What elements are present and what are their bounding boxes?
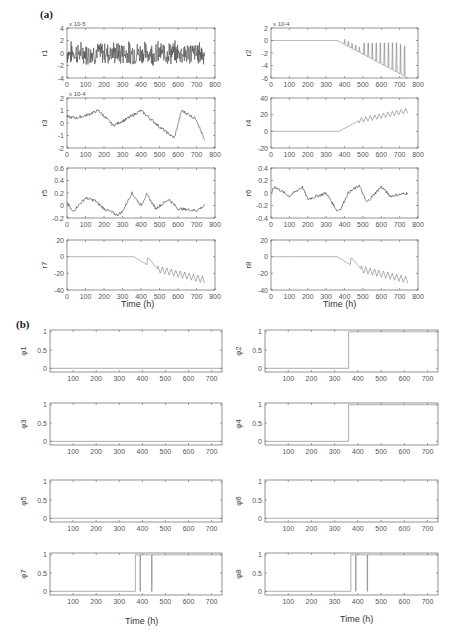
- y-tick-label: -2: [262, 50, 268, 57]
- x-tick-label: 200: [302, 81, 314, 88]
- y-tick-label: 1: [258, 401, 262, 408]
- y-tick-label: -20: [258, 145, 268, 152]
- plot-r8: 0100200300400500600700800-40-20020r8: [244, 237, 424, 301]
- x-tick-label: 300: [113, 525, 125, 532]
- y-tick-label: 0.2: [258, 177, 268, 184]
- data-series: [271, 109, 408, 132]
- x-tick-label: 400: [352, 375, 364, 382]
- y-tick-label: 0.4: [258, 165, 268, 172]
- x-tick-label: 600: [398, 598, 410, 605]
- plot-frame: [67, 240, 215, 290]
- x-tick-label: 100: [67, 375, 79, 382]
- plot-φ7: 10020030040050060070000.51φ7: [19, 551, 222, 605]
- y-tick-label: 1: [258, 478, 262, 485]
- x-tick-label: 100: [67, 448, 79, 455]
- plot-φ3: 10020030040050060070000.51φ3: [19, 401, 222, 455]
- x-tick-label: 400: [352, 448, 364, 455]
- x-tick-label: 200: [90, 525, 102, 532]
- x-tick-label: 500: [375, 375, 387, 382]
- plot-r5: 0100200300400500600700800-0.200.20.40.6r…: [40, 165, 221, 229]
- y-tick-label: 0.5: [252, 420, 262, 427]
- y-tick-label: 0: [43, 515, 47, 522]
- y-axis-label: r5: [40, 189, 49, 197]
- y-axis-label: φ8: [234, 569, 243, 579]
- x-tick-label: 800: [209, 81, 221, 88]
- x-tick-label: 400: [135, 81, 147, 88]
- x-tick-label: 0: [269, 221, 273, 228]
- x-tick-label: 500: [375, 525, 387, 532]
- x-tick-label: 200: [90, 375, 102, 382]
- y-tick-label: 0: [264, 253, 268, 260]
- x-tick-label: 100: [284, 221, 296, 228]
- y-axis-label: r3: [40, 119, 49, 127]
- x-tick-label: 400: [352, 598, 364, 605]
- x-tick-label: 300: [117, 151, 129, 158]
- y-tick-label: 1: [43, 478, 47, 485]
- plot-φ5: 10020030040050060070000.51φ5: [19, 478, 222, 532]
- x-tick-label: 300: [329, 525, 341, 532]
- x-tick-label: 300: [117, 221, 129, 228]
- data-series: [67, 40, 205, 65]
- x-tick-label: 100: [282, 448, 294, 455]
- plot-frame: [265, 330, 438, 372]
- y-tick-label: 4: [60, 25, 64, 32]
- x-tick-label: 200: [98, 221, 110, 228]
- y-tick-label: 0: [258, 438, 262, 445]
- y-tick-label: 1: [258, 551, 262, 558]
- plot-φ1: 10020030040050060070000.51φ1: [19, 328, 222, 382]
- y-tick-label: -0.2: [256, 202, 268, 209]
- y-tick-label: -40: [54, 287, 64, 294]
- x-tick-label: 700: [394, 151, 406, 158]
- x-tick-label: 200: [98, 293, 110, 300]
- panel-b-label: (b): [16, 318, 29, 330]
- x-tick-label: 200: [90, 448, 102, 455]
- x-tick-label: 700: [191, 81, 203, 88]
- x-tick-label: 200: [98, 81, 110, 88]
- x-tick-label: 700: [394, 81, 406, 88]
- x-tick-label: 100: [282, 525, 294, 532]
- y-tick-label: -20: [258, 270, 268, 277]
- x-tick-label: 500: [357, 221, 369, 228]
- x-tick-label: 500: [154, 81, 166, 88]
- y-tick-label: 1: [43, 328, 47, 335]
- x-tick-label: 500: [154, 151, 166, 158]
- plot-r2: 0100200300400500600700800-6-4-202r2x 10-…: [244, 21, 424, 88]
- x-tick-label: 0: [269, 151, 273, 158]
- x-tick-label: 0: [65, 293, 69, 300]
- x-tick-label: 100: [80, 151, 92, 158]
- x-tick-label: 200: [90, 598, 102, 605]
- plot-r4: 0100200300400500600700800-2002040r4: [244, 95, 424, 159]
- x-tick-label: 400: [339, 221, 351, 228]
- x-tick-label: 300: [320, 81, 332, 88]
- plot-frame: [67, 98, 215, 148]
- x-tick-label: 500: [357, 81, 369, 88]
- y-tick-label: -0.2: [52, 215, 64, 222]
- y-tick-label: 0.5: [252, 570, 262, 577]
- x-tick-label: 800: [412, 293, 424, 300]
- x-tick-label: 700: [394, 221, 406, 228]
- y-tick-label: 0: [43, 438, 47, 445]
- plot-r3: 0100200300400500600700800-2-1012r3x 10-4: [40, 91, 221, 158]
- y-tick-label: 0: [264, 37, 268, 44]
- y-tick-label: 0.5: [37, 420, 47, 427]
- data-series: [271, 257, 408, 284]
- x-tick-label: 600: [398, 375, 410, 382]
- x-tick-label: 600: [375, 221, 387, 228]
- y-tick-label: -1: [58, 132, 64, 139]
- plot-r1: 0100200300400500600700800-4-2024r1x 10-5: [40, 21, 221, 88]
- y-tick-label: 0.5: [37, 347, 47, 354]
- x-tick-label: 100: [284, 151, 296, 158]
- x-tick-label: 0: [65, 151, 69, 158]
- y-tick-label: 0.2: [54, 190, 64, 197]
- y-tick-label: 0: [258, 515, 262, 522]
- y-tick-label: 20: [56, 237, 64, 244]
- data-series: [271, 185, 408, 211]
- x-tick-label: 600: [375, 151, 387, 158]
- y-tick-label: 20: [260, 237, 268, 244]
- x-tick-label: 100: [282, 598, 294, 605]
- y-tick-label: -0.4: [256, 215, 268, 222]
- x-tick-label: 500: [357, 293, 369, 300]
- plot-φ6: 10020030040050060070000.51φ6: [234, 478, 438, 532]
- x-tick-label: 100: [284, 81, 296, 88]
- y-axis-label: φ1: [19, 346, 28, 356]
